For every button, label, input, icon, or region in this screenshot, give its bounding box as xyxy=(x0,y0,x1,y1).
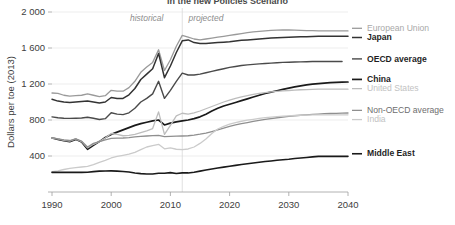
legend: European UnionJapanOECD averageChinaUnit… xyxy=(352,23,444,158)
x-tick-label-2000: 2000 xyxy=(101,199,122,210)
chart-title: in the new Policies Scenario xyxy=(0,0,455,4)
series-line-middle-east xyxy=(52,156,348,174)
legend-label-middle-east: Middle East xyxy=(367,148,415,158)
legend-label-united-states: United States xyxy=(367,83,419,93)
annotation-projected: projected xyxy=(187,13,223,23)
legend-label-india: India xyxy=(367,114,386,124)
chart-container: in the new Policies Scenario 4008001 200… xyxy=(0,0,455,225)
x-tick-label-2020: 2020 xyxy=(219,199,240,210)
y-tick-label-400: 400 xyxy=(29,150,45,161)
legend-label-japan: Japan xyxy=(367,32,392,42)
series-line-japan xyxy=(52,36,348,103)
x-tick-label-2040: 2040 xyxy=(337,199,358,210)
y-axis-title: Dollars per toe (2013) xyxy=(5,56,16,148)
series-group xyxy=(52,30,348,174)
y-tick-label-1200: 1 200 xyxy=(21,78,45,89)
annotation-historical: historical xyxy=(130,13,165,23)
line-chart: 4008001 2001 6002 000 199020002010202020… xyxy=(0,0,455,225)
phase-annotations: historicalprojected xyxy=(130,13,224,23)
y-tick-label-1600: 1 600 xyxy=(21,42,45,53)
y-tick-label-2000: 2 000 xyxy=(21,6,45,17)
series-line-european-union xyxy=(52,30,348,97)
x-tick-label-2030: 2030 xyxy=(278,199,299,210)
x-tick-labels: 199020002010202020302040 xyxy=(41,199,358,210)
y-tick-label-800: 800 xyxy=(29,114,45,125)
x-tick-label-1990: 1990 xyxy=(41,199,62,210)
series-line-non-oecd-average xyxy=(52,113,348,147)
y-tick-labels: 4008001 2001 6002 000 xyxy=(21,6,45,161)
x-tick-label-2010: 2010 xyxy=(160,199,181,210)
y-axis-title-text: Dollars per toe (2013) xyxy=(5,56,16,148)
legend-label-oecd-average: OECD average xyxy=(367,54,427,64)
